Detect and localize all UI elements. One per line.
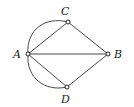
label-d: D [60,93,70,106]
node-d [65,85,69,89]
node-b [106,52,110,56]
node-c [66,20,70,24]
edge-c-b [68,22,108,54]
edge-d-b [67,54,108,87]
graph-diagram: A B C D [0,0,134,107]
label-a: A [12,48,21,61]
label-c: C [61,5,70,18]
edge-a-c [28,22,68,54]
node-a [26,52,30,56]
label-b: B [113,48,122,61]
edge-a-d [28,54,67,87]
